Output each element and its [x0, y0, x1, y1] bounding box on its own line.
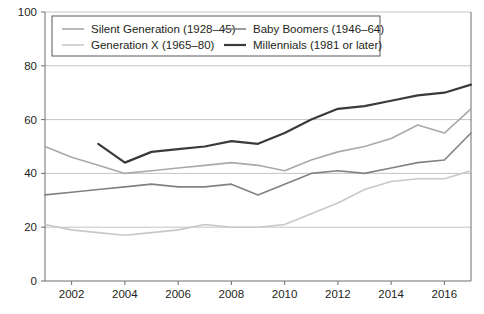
y-tick-label: 40 — [24, 167, 37, 179]
y-tick-label: 100 — [18, 6, 37, 18]
series-line — [45, 171, 471, 236]
y-tick-label: 20 — [24, 221, 37, 233]
y-tick-label: 0 — [31, 275, 37, 287]
legend-label: Baby Boomers (1946–64) — [253, 23, 384, 35]
x-tick-label: 2016 — [432, 288, 458, 300]
x-tick-label: 2014 — [378, 288, 404, 300]
legend-label: Silent Generation (1928–45) — [91, 23, 236, 35]
series-group — [45, 85, 471, 236]
legend: Silent Generation (1928–45)Baby Boomers … — [52, 16, 384, 56]
x-tick-label: 2002 — [59, 288, 85, 300]
series-line — [98, 85, 471, 163]
x-tick-label: 2010 — [272, 288, 298, 300]
x-tick-label: 2006 — [165, 288, 191, 300]
x-tick-label: 2004 — [112, 288, 138, 300]
x-tick-label: 2008 — [219, 288, 245, 300]
y-tick-label: 60 — [24, 114, 37, 126]
legend-label: Millennials (1981 or later) — [253, 39, 382, 51]
legend-label: Generation X (1965–80) — [91, 39, 215, 51]
series-line — [45, 109, 471, 174]
line-chart: 0204060801002002200420062008201020122014… — [0, 0, 484, 314]
chart-canvas: 0204060801002002200420062008201020122014… — [0, 0, 484, 314]
y-tick-label: 80 — [24, 60, 37, 72]
y-axis: 020406080100 — [18, 6, 45, 287]
series-line — [45, 133, 471, 195]
x-tick-label: 2012 — [325, 288, 351, 300]
x-axis: 20022004200620082010201220142016 — [59, 281, 457, 300]
